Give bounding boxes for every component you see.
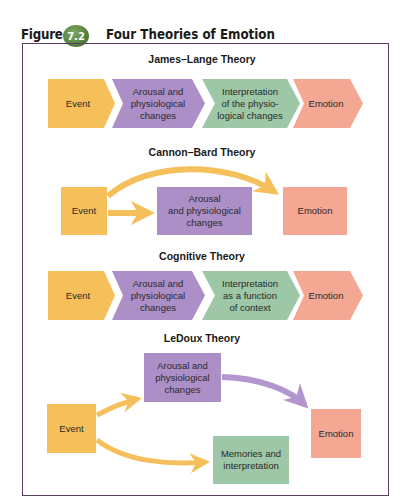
cg-event-label: Event <box>48 271 108 320</box>
ld-emotion-label: Emotion <box>311 409 361 458</box>
cannon-bard-title: Cannon–Bard Theory <box>0 146 404 158</box>
ld-arousal-label: Arousal andphysiologicalchanges <box>144 353 221 402</box>
ld-memories-label: Memories andinterpretation <box>213 436 289 484</box>
cg-emotion-label: Emotion <box>298 271 354 320</box>
james-lange-title: James–Lange Theory <box>0 53 404 65</box>
jl-event-label: Event <box>48 79 108 128</box>
cb-event-label: Event <box>61 187 107 235</box>
jl-arousal-label: Arousal andphysiologicalchanges <box>118 79 198 128</box>
cognitive-title: Cognitive Theory <box>0 250 404 262</box>
jl-interpretation-label: Interpretationof the physio-logical chan… <box>206 79 294 128</box>
cb-emotion-label: Emotion <box>283 187 347 235</box>
ld-event-label: Event <box>47 404 96 453</box>
ld-event-to-memories-arrow <box>97 440 206 463</box>
cg-interpretation-label: Interpretationas a functionof context <box>206 271 294 320</box>
cb-arousal-label: Arousaland physiologicalchanges <box>157 187 252 235</box>
ledoux-title: LeDoux Theory <box>0 332 404 344</box>
jl-emotion-label: Emotion <box>298 79 354 128</box>
ld-event-to-arousal-arrow <box>97 399 138 415</box>
ld-arousal-to-emotion-arrow <box>222 377 305 405</box>
cg-arousal-label: Arousal andphysiologicalchanges <box>118 271 198 320</box>
